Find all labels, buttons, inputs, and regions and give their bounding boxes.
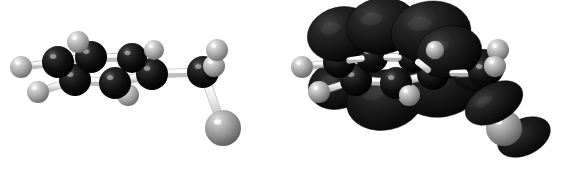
atom-c5 bbox=[117, 43, 147, 73]
atom-sphere-h bbox=[144, 40, 164, 60]
specular-highlight-icon bbox=[50, 54, 56, 59]
atom-h4-overlay bbox=[399, 85, 419, 105]
specular-highlight-icon bbox=[476, 64, 482, 69]
panel-ball-and-stick bbox=[0, 0, 281, 186]
atom-h5 bbox=[144, 40, 164, 60]
specular-highlight-icon bbox=[212, 45, 216, 48]
specular-highlight-icon bbox=[430, 45, 434, 48]
atom-h6 bbox=[206, 39, 228, 61]
specular-highlight-icon bbox=[490, 61, 494, 64]
atom-h7-overlay bbox=[485, 56, 505, 76]
specular-highlight-icon bbox=[314, 87, 318, 90]
specular-highlight-icon bbox=[125, 51, 131, 56]
atom-sphere-c bbox=[42, 46, 74, 78]
atom-h2 bbox=[27, 81, 49, 103]
atom-c1 bbox=[42, 46, 74, 78]
ball-and-stick-canvas bbox=[0, 0, 281, 186]
atom-sphere-h bbox=[292, 57, 312, 77]
panel-molecular-orbital bbox=[281, 0, 562, 186]
atom-sphere-h bbox=[27, 81, 49, 103]
specular-highlight-icon bbox=[493, 45, 497, 48]
atom-sphere-h bbox=[399, 85, 419, 105]
atom-h5-overlay bbox=[426, 41, 444, 59]
molecular-orbital-canvas bbox=[281, 0, 562, 186]
atom-h3 bbox=[67, 31, 89, 53]
atom-h1 bbox=[10, 56, 32, 78]
atom-sphere-cl bbox=[205, 110, 241, 146]
atom-h1-overlay bbox=[292, 57, 312, 77]
specular-highlight-icon bbox=[388, 75, 394, 80]
specular-highlight-icon bbox=[297, 62, 301, 65]
atom-sphere-h bbox=[309, 82, 329, 102]
specular-highlight-icon bbox=[73, 37, 77, 40]
atom-sphere-h bbox=[485, 56, 505, 76]
specular-highlight-icon bbox=[149, 45, 153, 48]
atom-sphere-h bbox=[426, 41, 444, 59]
specular-highlight-icon bbox=[404, 90, 408, 93]
specular-highlight-icon bbox=[33, 87, 37, 90]
atom-sphere-h bbox=[206, 39, 228, 61]
specular-highlight-icon bbox=[144, 66, 150, 71]
atom-cl1 bbox=[205, 110, 241, 146]
specular-highlight-icon bbox=[209, 61, 213, 64]
atom-sphere-c bbox=[117, 43, 147, 73]
atom-sphere-h bbox=[10, 56, 32, 78]
atom-h2-overlay bbox=[309, 82, 329, 102]
specular-highlight-icon bbox=[214, 119, 221, 124]
specular-highlight-icon bbox=[107, 75, 113, 80]
specular-highlight-icon bbox=[195, 64, 201, 69]
molecular-model-figure bbox=[0, 0, 562, 186]
specular-highlight-icon bbox=[16, 62, 20, 65]
bond-stub-C1-C3 bbox=[350, 59, 362, 61]
atom-sphere-h bbox=[67, 31, 89, 53]
